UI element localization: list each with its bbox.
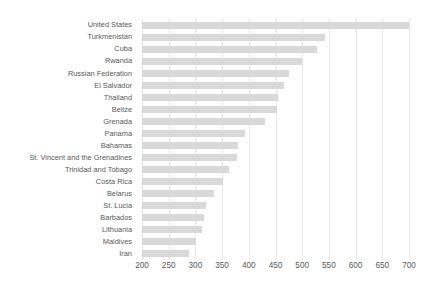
bar[interactable]: [142, 238, 196, 245]
chart-title: [0, 0, 429, 5]
category-label: Belize: [0, 103, 136, 115]
bar-row: [142, 188, 409, 200]
bar[interactable]: [142, 22, 409, 29]
bar[interactable]: [142, 142, 238, 149]
category-label: St. Lucia: [0, 200, 136, 212]
bar[interactable]: [142, 190, 214, 197]
category-label: Grenada: [0, 115, 136, 127]
bar-row: [142, 55, 409, 67]
bar[interactable]: [142, 130, 245, 137]
category-label: Thailand: [0, 91, 136, 103]
bar[interactable]: [142, 214, 204, 221]
x-tick-label: 700: [402, 262, 416, 270]
bar[interactable]: [142, 118, 265, 125]
bar-row: [142, 164, 409, 176]
category-label: Barbados: [0, 212, 136, 224]
category-label: Costa Rica: [0, 176, 136, 188]
bar[interactable]: [142, 166, 229, 173]
bar-row: [142, 212, 409, 224]
bar[interactable]: [142, 70, 289, 77]
category-label: Rwanda: [0, 55, 136, 67]
bar[interactable]: [142, 226, 202, 233]
bar[interactable]: [142, 34, 325, 41]
category-label: Lithuania: [0, 224, 136, 236]
x-tick-label: 450: [269, 262, 283, 270]
x-tick-label: 350: [215, 262, 229, 270]
category-label: Bahamas: [0, 139, 136, 151]
bar[interactable]: [142, 154, 237, 161]
bar-row: [142, 43, 409, 55]
bar-row: [142, 248, 409, 260]
bar[interactable]: [142, 82, 284, 89]
category-axis-labels: United StatesTurkmenistanCubaRwandaRussi…: [0, 19, 136, 260]
x-axis-tick-labels: 200250300350400450500550600650700: [142, 262, 409, 276]
category-label: Cuba: [0, 43, 136, 55]
category-label: Russian Federation: [0, 67, 136, 79]
category-label: Panama: [0, 127, 136, 139]
bar-row: [142, 67, 409, 79]
bar-row: [142, 176, 409, 188]
bar-row: [142, 224, 409, 236]
bar-chart: United StatesTurkmenistanCubaRwandaRussi…: [0, 0, 429, 290]
x-tick-label: 600: [349, 262, 363, 270]
x-tick-label: 500: [295, 262, 309, 270]
category-label: Belarus: [0, 188, 136, 200]
bar-row: [142, 19, 409, 31]
category-label: St. Vincent and the Grenadines: [0, 152, 136, 164]
category-label: Turkmenistan: [0, 31, 136, 43]
x-tick-label: 300: [189, 262, 203, 270]
plot-area: [142, 19, 409, 260]
category-label: Trinidad and Tobago: [0, 164, 136, 176]
x-tick-label: 550: [322, 262, 336, 270]
x-tick-label: 650: [375, 262, 389, 270]
bar[interactable]: [142, 46, 317, 53]
bar-row: [142, 91, 409, 103]
x-tick-label: 400: [242, 262, 256, 270]
bar-row: [142, 127, 409, 139]
bar[interactable]: [142, 106, 277, 113]
bar-row: [142, 103, 409, 115]
bar[interactable]: [142, 94, 278, 101]
bar-series: [142, 19, 409, 260]
bar-row: [142, 152, 409, 164]
x-tick-label: 250: [162, 262, 176, 270]
category-label: El Salvador: [0, 79, 136, 91]
bar[interactable]: [142, 58, 302, 65]
bar-row: [142, 236, 409, 248]
bar-row: [142, 79, 409, 91]
bar-row: [142, 139, 409, 151]
category-label: United States: [0, 19, 136, 31]
x-tick-label: 200: [135, 262, 149, 270]
bar[interactable]: [142, 250, 189, 257]
bar[interactable]: [142, 178, 223, 185]
gridline: [409, 19, 410, 260]
bar[interactable]: [142, 202, 206, 209]
bar-row: [142, 115, 409, 127]
bar-row: [142, 31, 409, 43]
bar-row: [142, 200, 409, 212]
category-label: Maldives: [0, 236, 136, 248]
category-label: Iran: [0, 248, 136, 260]
